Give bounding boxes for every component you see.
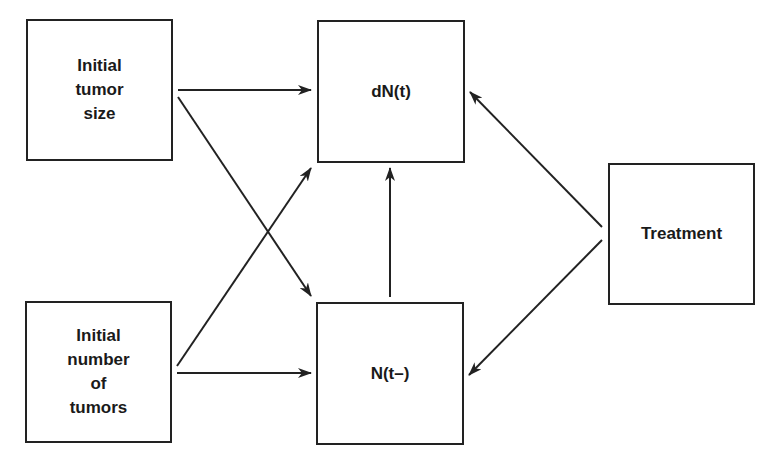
node-label: dN(t)	[371, 80, 411, 104]
node-label: N(t–)	[371, 362, 410, 386]
node-label: Initial number of tumors	[67, 324, 129, 420]
node-initial-number-of-tumors: Initial number of tumors	[25, 301, 172, 443]
node-initial-tumor-size: Initial tumor size	[26, 19, 173, 161]
node-label: Treatment	[641, 222, 722, 246]
node-treatment: Treatment	[608, 163, 755, 305]
node-label: Initial tumor size	[75, 54, 123, 126]
arrow-treatment-to-N	[469, 240, 602, 375]
node-dN: dN(t)	[317, 20, 465, 163]
node-N: N(t–)	[316, 302, 464, 445]
arrow-treatment-to-dN	[470, 92, 602, 227]
diagram-canvas: Initial tumor size dN(t) Initial number …	[0, 0, 775, 466]
